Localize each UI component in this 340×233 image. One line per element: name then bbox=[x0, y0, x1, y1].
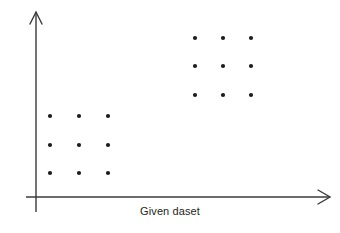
data-point bbox=[106, 171, 110, 175]
data-cluster-lower-left bbox=[48, 114, 110, 175]
data-cluster-upper-right bbox=[193, 36, 253, 97]
plot-canvas bbox=[0, 0, 340, 233]
data-point bbox=[48, 143, 52, 147]
data-point bbox=[106, 143, 110, 147]
x-axis-caption: Given daset bbox=[0, 205, 340, 217]
data-point bbox=[77, 143, 81, 147]
data-point bbox=[48, 114, 52, 118]
scatter-plot-figure: Given daset bbox=[0, 0, 340, 233]
data-point bbox=[249, 36, 253, 40]
data-point bbox=[106, 114, 110, 118]
data-point bbox=[249, 93, 253, 97]
data-point bbox=[48, 171, 52, 175]
data-point bbox=[249, 64, 253, 68]
data-point bbox=[193, 93, 197, 97]
data-point bbox=[77, 171, 81, 175]
y-axis-group bbox=[30, 12, 42, 212]
x-axis-group bbox=[26, 190, 330, 204]
data-point bbox=[221, 93, 225, 97]
data-point bbox=[193, 64, 197, 68]
data-point bbox=[221, 64, 225, 68]
data-point bbox=[221, 36, 225, 40]
data-point bbox=[193, 36, 197, 40]
data-point bbox=[77, 114, 81, 118]
